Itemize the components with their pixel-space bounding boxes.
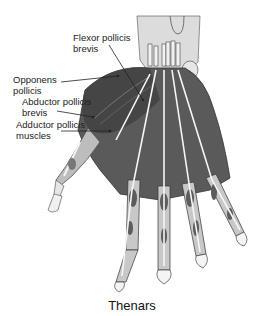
label-abductor-pollicis-brevis: Abductor pollicis brevis xyxy=(22,96,91,118)
figure-caption: Thenars xyxy=(0,298,264,313)
label-opponens-pollicis: Opponens pollicis xyxy=(13,74,57,96)
hand-muscle-illustration xyxy=(0,0,264,316)
label-flexor-pollicis-brevis: Flexor pollicis brevis xyxy=(73,32,131,54)
label-adductor-pollicis-muscles: Adductor pollicis muscles xyxy=(16,119,85,141)
